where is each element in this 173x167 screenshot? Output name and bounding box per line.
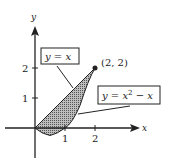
- label-parabola: y = x2 − x: [101, 89, 153, 101]
- leader-line-parabola: [78, 106, 130, 114]
- label-y-eq-x: y = x: [44, 51, 71, 62]
- y-axis-label: y: [30, 12, 37, 22]
- point-marker: [93, 66, 98, 71]
- point-label: (2, 2): [101, 57, 128, 68]
- y-tick-label-2: 2: [22, 63, 28, 74]
- x-tick-label-1: 1: [62, 133, 68, 144]
- y-tick-label-1: 1: [22, 93, 28, 104]
- leader-line-y-eq-x: [57, 66, 73, 88]
- region-diagram: 1 2 1 2 x y (2, 2) y = x y = x2 − x: [0, 0, 173, 167]
- x-tick-label-2: 2: [92, 133, 98, 144]
- x-axis-label: x: [142, 123, 147, 133]
